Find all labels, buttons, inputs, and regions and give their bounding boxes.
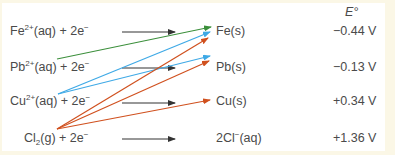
reaction-arrows <box>0 0 395 155</box>
blue-cross-arrow <box>58 56 210 94</box>
blue-cross-arrow <box>58 32 210 94</box>
red-cross-arrow <box>57 38 208 129</box>
red-cross-arrow <box>57 61 209 129</box>
